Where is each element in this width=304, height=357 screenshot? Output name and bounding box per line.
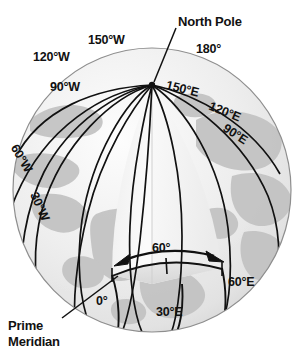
meridian-label-30e: 30°E: [156, 305, 182, 320]
globe-figure: North Pole Prime Meridian 120°W 150°W 18…: [0, 0, 304, 357]
callout-prime-meridian-line-2: Meridian: [8, 334, 60, 349]
callout-prime-meridian-line-1: Prime: [8, 318, 43, 333]
meridian-label-0: 0°: [96, 294, 108, 309]
meridian-label-150w: 150°W: [88, 33, 125, 48]
north-pole-point: [149, 82, 155, 88]
meridian-label-120w: 120°W: [33, 50, 70, 65]
meridian-label-90w: 90°W: [50, 80, 80, 95]
angle-label-60: 60°: [152, 241, 170, 256]
meridian-label-180: 180°: [196, 42, 221, 57]
callout-north-pole: North Pole: [178, 14, 242, 29]
meridian-label-60e: 60°E: [228, 275, 254, 290]
